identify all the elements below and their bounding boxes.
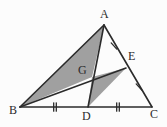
- geometry-figure: A B C D E G: [0, 0, 167, 127]
- vertex-label-g: G: [78, 64, 87, 76]
- vertex-label-a: A: [100, 8, 109, 20]
- vertex-label-b: B: [9, 104, 17, 116]
- vertex-label-c: C: [150, 108, 158, 120]
- segment-side-ac: [104, 25, 152, 107]
- vertex-label-e: E: [128, 50, 135, 62]
- vertex-label-d: D: [82, 110, 91, 122]
